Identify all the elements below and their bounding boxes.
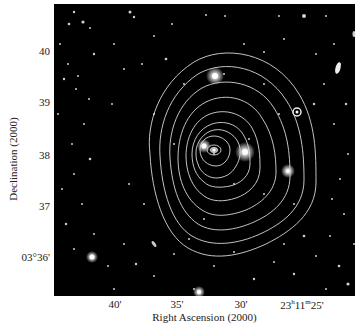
sky-image — [54, 4, 355, 296]
x-tick-label-ra-hours: 23h11m25' — [262, 298, 342, 311]
ra-hours: 23 — [280, 299, 291, 311]
central-galaxy — [209, 147, 219, 154]
y-tick-label: 40 — [4, 45, 50, 57]
y-axis-title: Declination (2000) — [7, 94, 19, 224]
sky-image-svg — [54, 4, 355, 296]
ra-seconds: 25' — [311, 299, 324, 311]
x-axis-title: Right Ascension (2000) — [54, 311, 355, 323]
ra-minutes: 11 — [295, 299, 306, 311]
y-tick-label: 03°36' — [4, 251, 50, 263]
